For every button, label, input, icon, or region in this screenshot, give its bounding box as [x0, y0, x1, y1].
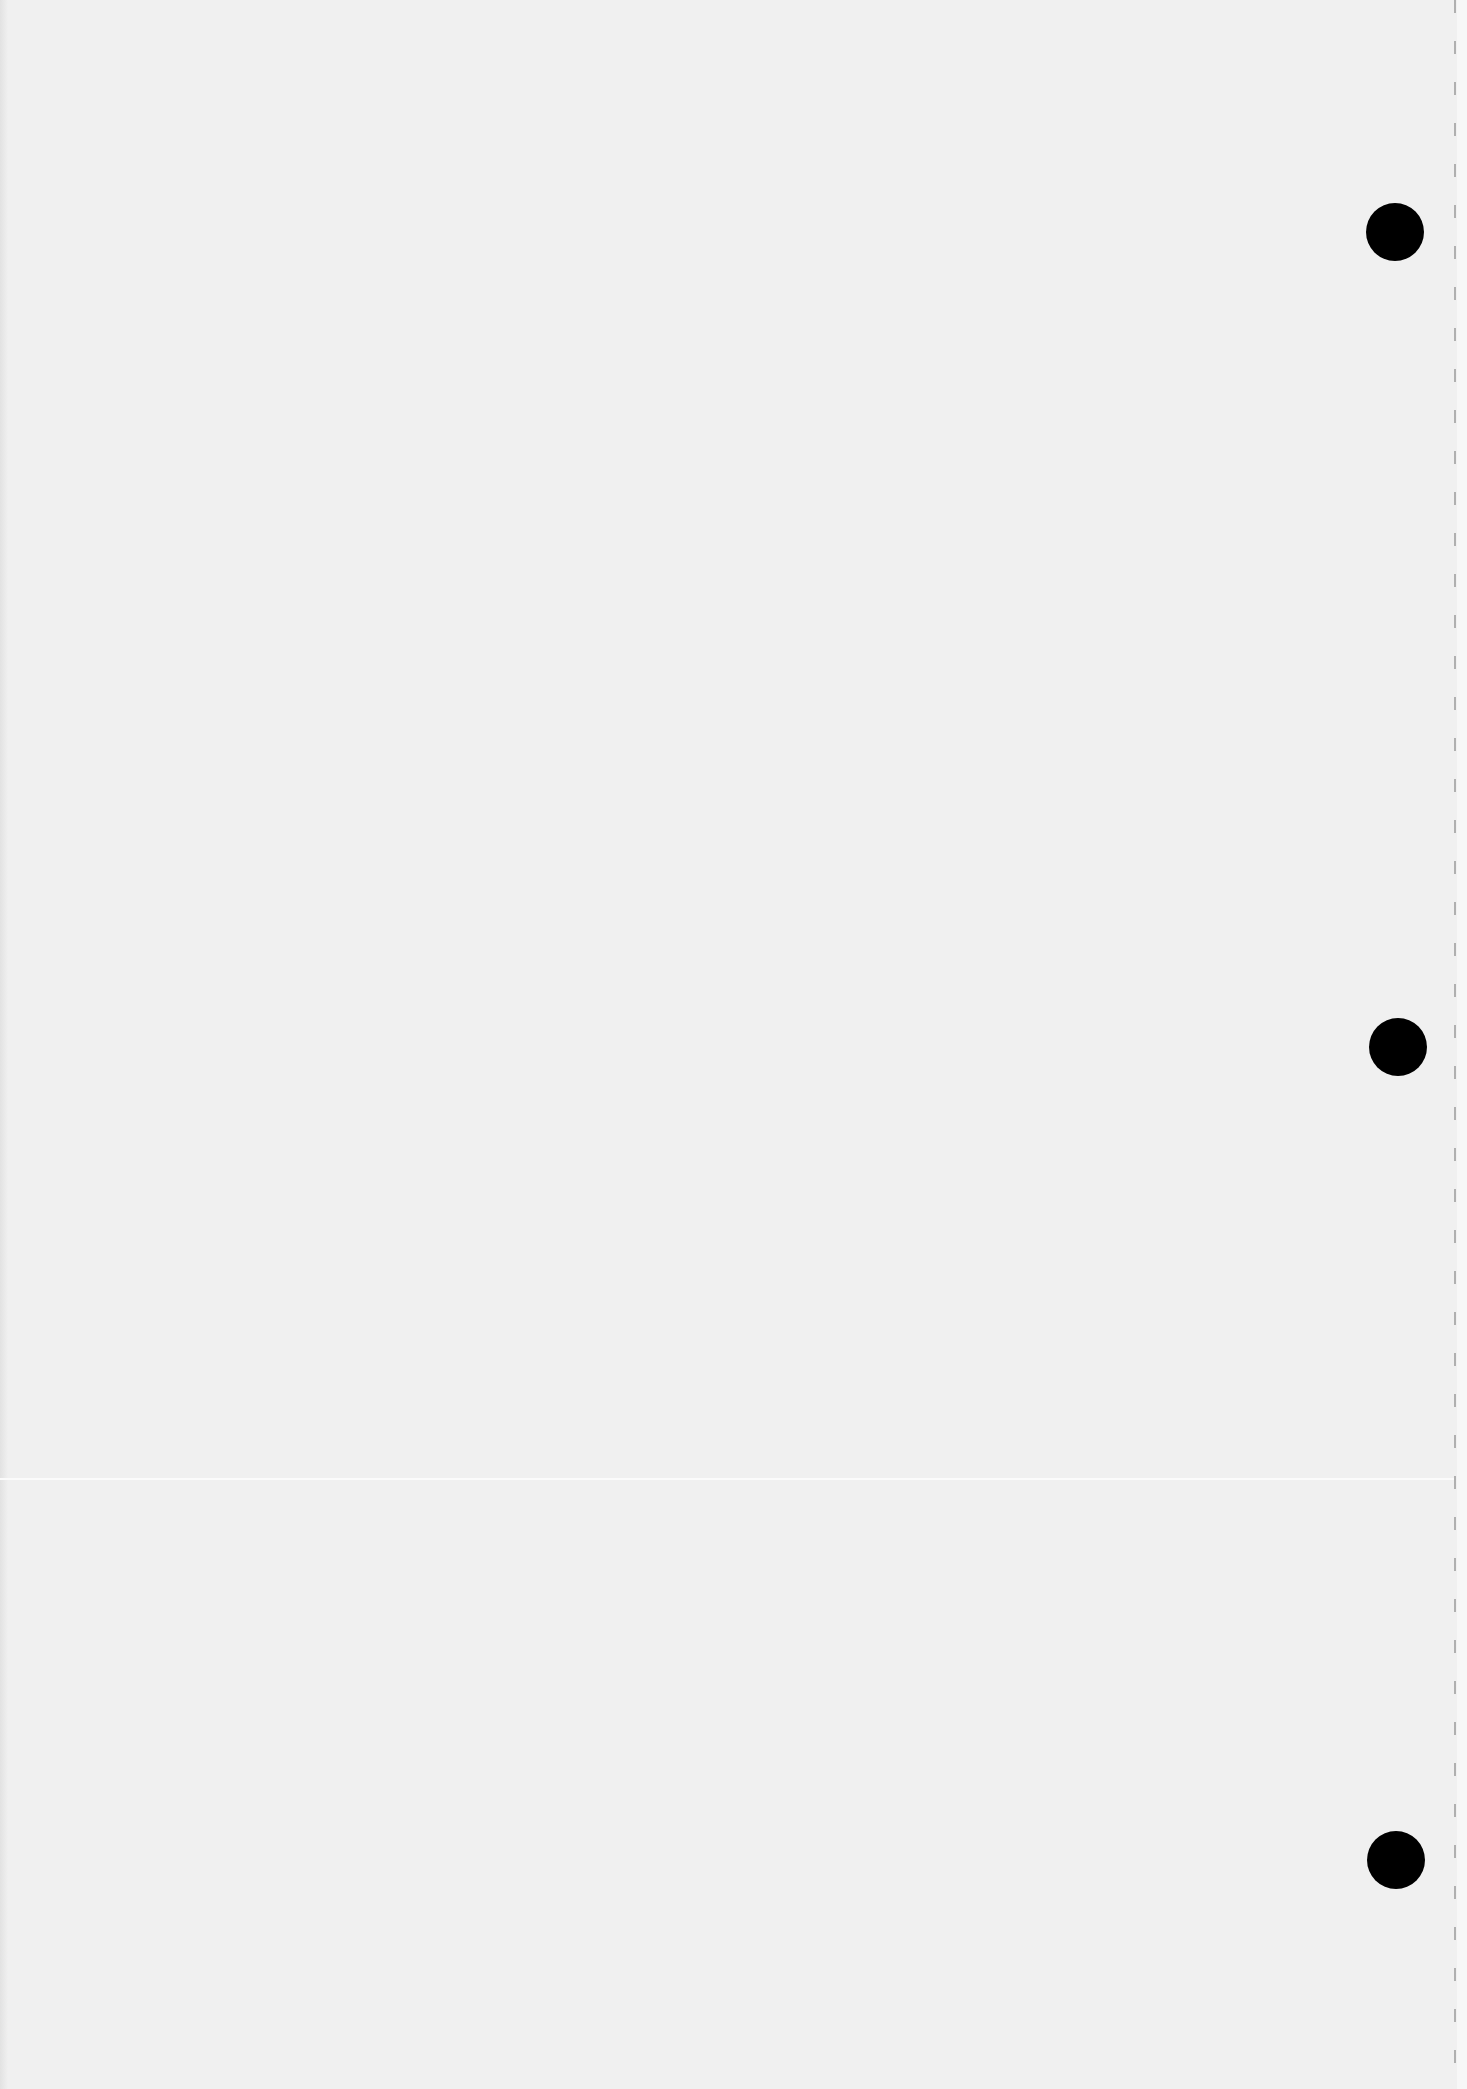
scanned-page — [0, 0, 1467, 2089]
punch-hole-top — [1366, 203, 1424, 261]
punch-hole-middle — [1369, 1018, 1427, 1076]
perforation-line — [1454, 0, 1456, 2089]
punch-hole-bottom — [1367, 1831, 1425, 1889]
scan-artifact-line — [0, 1478, 1454, 1480]
tear-off-strip — [1457, 0, 1467, 2089]
